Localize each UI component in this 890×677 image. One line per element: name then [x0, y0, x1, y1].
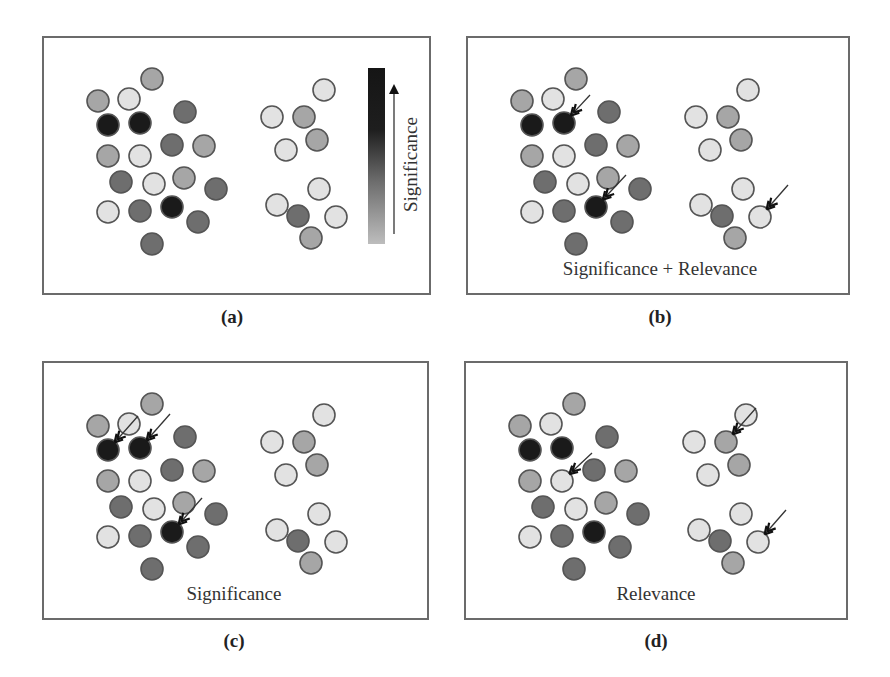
node-circle-dark [627, 503, 649, 525]
node-circle-medium [722, 552, 744, 574]
node-circle-medium [509, 415, 531, 437]
node-circle-dark [596, 426, 618, 448]
node-circle-light [730, 503, 752, 525]
node-circle-light [565, 498, 587, 520]
node-circle-dark [709, 530, 731, 552]
node-circle-dark [583, 459, 605, 481]
node-circle-medium [728, 454, 750, 476]
node-circle-medium [563, 393, 585, 415]
node-circle-medium [615, 460, 637, 482]
node-circle-medium [595, 492, 617, 514]
node-circle-black [551, 437, 573, 459]
node-circle-light [688, 519, 710, 541]
panel-d-label: Relevance [616, 583, 695, 605]
node-circle-light [697, 464, 719, 486]
node-circle-black [519, 439, 541, 461]
node-circle-light [540, 413, 562, 435]
node-circle-dark [609, 536, 631, 558]
node-circle-light [519, 526, 541, 548]
node-circle-dark [532, 496, 554, 518]
node-circle-dark [551, 525, 573, 547]
node-circle-medium [519, 470, 541, 492]
panel-d-graphic [0, 0, 890, 677]
node-circle-black [583, 521, 605, 543]
panel-d-caption: (d) [644, 630, 667, 652]
arrow-icon [765, 510, 786, 534]
node-circle-light [735, 404, 757, 426]
node-circle-dark [563, 558, 585, 580]
node-circle-light [683, 431, 705, 453]
